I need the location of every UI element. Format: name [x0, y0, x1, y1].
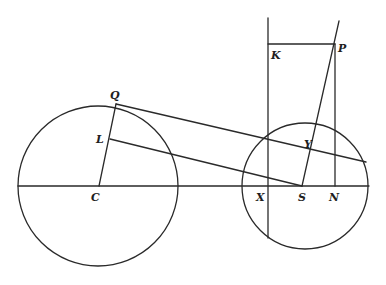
geometric-diagram: QLCKPYXSN	[0, 0, 386, 285]
line-Q-tangent	[116, 104, 366, 162]
point-label-p: P	[337, 42, 347, 55]
point-label-k: K	[270, 49, 281, 62]
line-segments	[18, 18, 369, 238]
point-label-q: Q	[110, 89, 120, 102]
point-label-l: L	[95, 133, 104, 146]
line-S-P-extended	[302, 21, 339, 186]
point-label-n: N	[328, 191, 340, 204]
point-label-y: Y	[304, 138, 313, 151]
point-label-c: C	[91, 191, 100, 204]
point-label-x: X	[255, 191, 265, 204]
line-L-S	[110, 139, 302, 186]
point-label-s: S	[298, 191, 306, 204]
